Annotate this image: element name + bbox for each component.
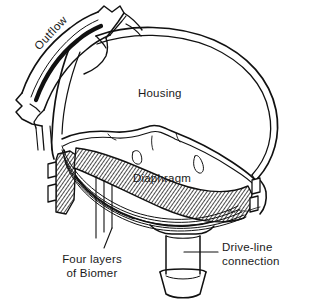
label-drive-line-line2: connection bbox=[222, 255, 298, 269]
drive-line-connection bbox=[150, 225, 214, 298]
label-drive-line-connection: Drive-lineconnection bbox=[222, 241, 298, 268]
label-four-layers-line2: of Biomer bbox=[52, 267, 132, 281]
label-drive-line-line1: Drive-line bbox=[222, 241, 273, 253]
label-diaphragm: Diaphragm bbox=[133, 172, 191, 185]
outflow-tube bbox=[16, 6, 142, 150]
label-four-layers-line1: Four layers bbox=[62, 253, 122, 265]
label-four-layers-of-biomer: Four layersof Biomer bbox=[52, 253, 132, 280]
label-housing: Housing bbox=[138, 87, 182, 100]
figure-page: Housing Diaphragm Outflow Four layersof … bbox=[0, 0, 313, 303]
